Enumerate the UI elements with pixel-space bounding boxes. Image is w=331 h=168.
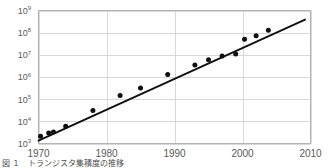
trend-line [39, 20, 306, 141]
y-tick-label: 109 [18, 5, 32, 16]
data-point-marker [233, 51, 238, 56]
x-tick-label: 1980 [95, 148, 118, 159]
data-point-marker [138, 85, 143, 90]
data-point-marker [220, 54, 225, 59]
data-points-group [38, 28, 271, 139]
data-point-marker [118, 93, 123, 98]
data-point-marker [63, 124, 68, 129]
x-tick-label: 2000 [231, 148, 254, 159]
y-tick-label: 107 [18, 50, 32, 61]
data-point-marker [242, 37, 247, 42]
x-tick-label: 2010 [299, 148, 322, 159]
figure-caption: 図 １ トランジスタ集積度の推移 [2, 159, 329, 168]
data-point-marker [254, 33, 259, 38]
data-point-marker [266, 28, 271, 33]
x-tick-label: 1990 [163, 148, 186, 159]
data-point-marker [51, 130, 56, 135]
y-tick-label: 106 [18, 72, 32, 83]
y-tick-label: 104 [18, 116, 32, 127]
data-point-marker [38, 134, 43, 139]
data-point-marker [165, 72, 170, 77]
data-point-marker [46, 130, 51, 135]
figure-container: 109108107106105104103 197019801990200020… [0, 0, 331, 168]
trend-line-segment [39, 20, 306, 141]
data-point-marker [206, 57, 211, 62]
y-tick-label: 108 [18, 27, 32, 38]
x-tick-label: 1970 [27, 148, 50, 159]
y-tick-label: 105 [18, 94, 32, 105]
semilog-scatter-chart: 109108107106105104103 197019801990200020… [0, 0, 331, 168]
data-point-marker [90, 108, 95, 113]
data-point-marker [192, 62, 197, 67]
y-axis-tick-labels: 109108107106105104103 [18, 5, 32, 149]
x-axis-tick-labels: 19701980199020002010 [27, 148, 322, 159]
